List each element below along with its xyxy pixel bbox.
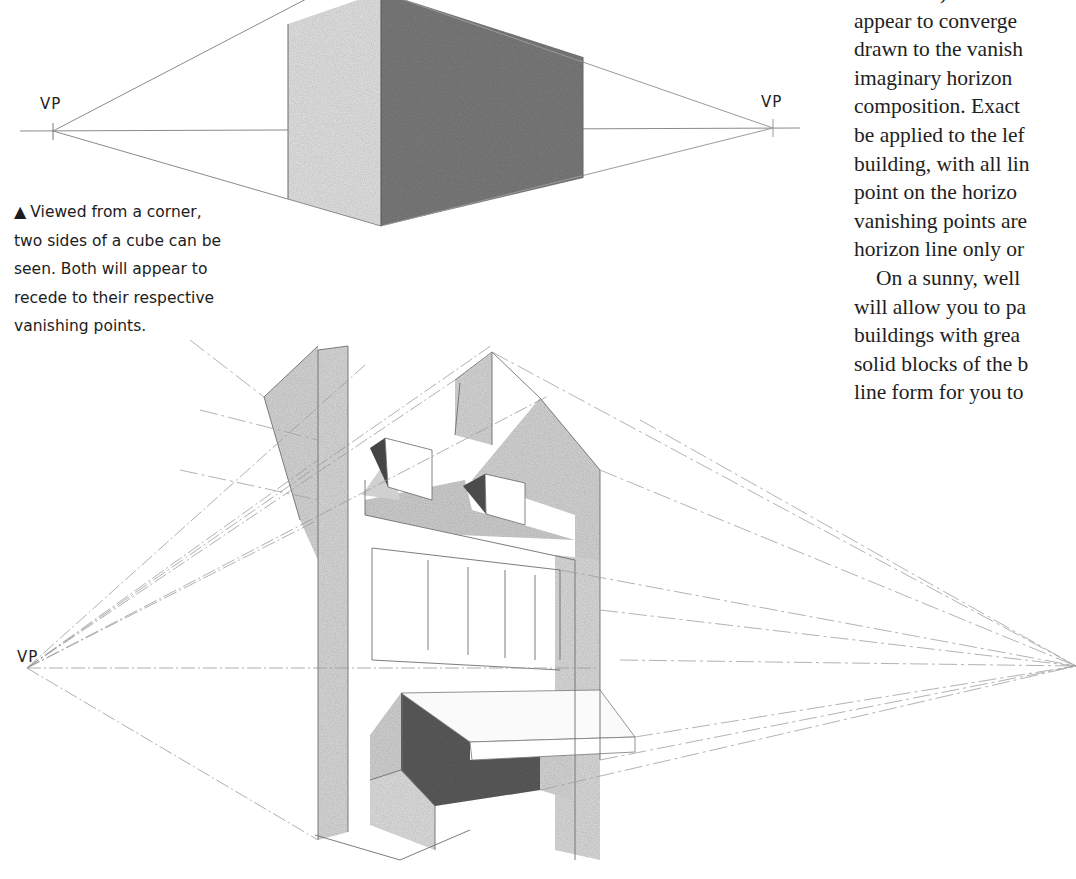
caption-line: ▲Viewed from a corner, bbox=[14, 198, 284, 227]
cube-figure bbox=[20, 0, 800, 226]
body-text-column: architrave) on the r appear to converge … bbox=[854, 0, 1076, 407]
text-line: be applied to the lef bbox=[854, 121, 1076, 150]
caption-line: vanishing points. bbox=[14, 312, 284, 341]
vanishing-point-label-right-top: VP bbox=[761, 93, 782, 111]
text-line: imaginary horizon bbox=[854, 64, 1076, 93]
text-line: vanishing points are bbox=[854, 207, 1076, 236]
text-line: architrave) on the r bbox=[854, 0, 1076, 7]
text-line: horizon line only or bbox=[854, 235, 1076, 264]
caption-line: two sides of a cube can be bbox=[14, 227, 284, 256]
text-line: building, with all lin bbox=[854, 150, 1076, 179]
text-line: line form for you to bbox=[854, 378, 1076, 407]
paragraph-start-line: On a sunny, well bbox=[854, 264, 1076, 293]
text-line: composition. Exact bbox=[854, 92, 1076, 121]
book-page: VP VP VP ▲Viewed from a corner, two side… bbox=[0, 0, 1076, 879]
cube-right-face bbox=[381, 0, 583, 226]
caption-line: seen. Both will appear to bbox=[14, 255, 284, 284]
vanishing-point-label-left-top: VP bbox=[40, 95, 61, 113]
text-line: will allow you to pa bbox=[854, 293, 1076, 322]
vanishing-point-label-left-bottom: VP bbox=[17, 648, 38, 666]
figure-caption: ▲Viewed from a corner, two sides of a cu… bbox=[14, 198, 284, 341]
text-line: point on the horizo bbox=[854, 178, 1076, 207]
text-line: buildings with grea bbox=[854, 321, 1076, 350]
cube-left-face bbox=[288, 0, 381, 226]
text-line: drawn to the vanish bbox=[854, 35, 1076, 64]
caption-line: recede to their respective bbox=[14, 284, 284, 313]
text-line: solid blocks of the b bbox=[854, 350, 1076, 379]
text-line: appear to converge bbox=[854, 7, 1076, 36]
triangle-up-icon: ▲ bbox=[14, 202, 26, 221]
building-figure bbox=[27, 340, 1076, 860]
